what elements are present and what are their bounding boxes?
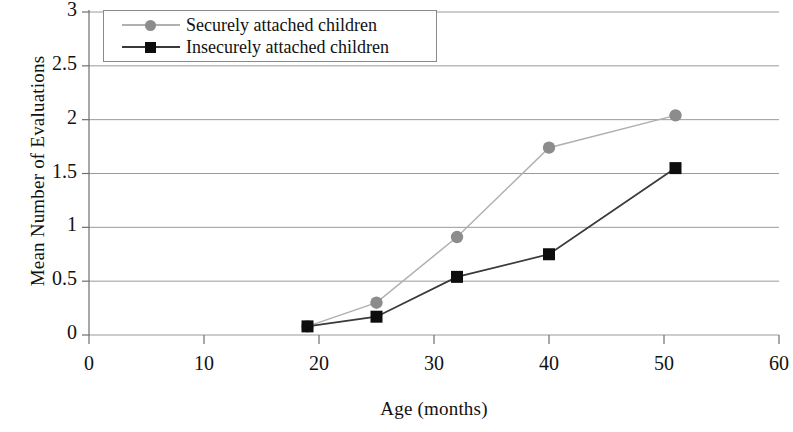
y-tick-label: 0 <box>17 321 77 344</box>
chart-figure: Mean Number of Evaluations Age (months) … <box>0 0 793 432</box>
chart-legend: Securely attached children Insecurely at… <box>103 10 437 62</box>
legend-sample-secure <box>122 16 180 34</box>
y-tick-label: 1 <box>17 213 77 236</box>
y-tick-label: 2 <box>17 106 77 129</box>
legend-entry-secure: Securely attached children <box>122 13 377 37</box>
legend-label-insecure: Insecurely attached children <box>186 37 389 57</box>
x-tick-label: 30 <box>404 352 464 375</box>
y-tick-label: 2.5 <box>17 52 77 75</box>
legend-sample-insecure <box>122 38 180 56</box>
y-tick-label: 3 <box>17 0 77 21</box>
y-tick-label: 0.5 <box>17 267 77 290</box>
x-tick-label: 60 <box>749 352 793 375</box>
legend-marker-circle-icon <box>145 20 156 31</box>
x-tick-label: 20 <box>289 352 349 375</box>
y-tick-label: 1.5 <box>17 160 77 183</box>
x-axis-title: Age (months) <box>89 398 779 420</box>
x-tick-label: 10 <box>174 352 234 375</box>
y-axis-ticks <box>82 12 89 335</box>
series-markers <box>301 109 681 332</box>
x-axis-ticks <box>89 335 779 344</box>
x-tick-label: 0 <box>59 352 119 375</box>
legend-marker-square-icon <box>145 42 156 53</box>
x-tick-label: 40 <box>519 352 579 375</box>
series-lines <box>308 115 676 326</box>
legend-entry-insecure: Insecurely attached children <box>122 35 389 59</box>
legend-label-secure: Securely attached children <box>186 15 377 35</box>
x-tick-label: 50 <box>634 352 694 375</box>
